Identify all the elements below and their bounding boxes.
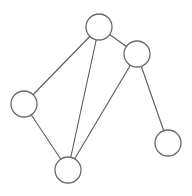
graph-diagram [0, 0, 192, 196]
edge-n1-n4 [68, 27, 99, 170]
node-n3 [11, 91, 37, 117]
edge-n1-n3 [24, 27, 99, 104]
node-n1 [86, 14, 112, 40]
nodes-layer [11, 14, 181, 183]
edge-n2-n4 [68, 54, 137, 170]
node-n4 [55, 157, 81, 183]
node-n2 [124, 41, 150, 67]
edge-n2-n5 [137, 54, 168, 143]
node-n5 [155, 130, 181, 156]
